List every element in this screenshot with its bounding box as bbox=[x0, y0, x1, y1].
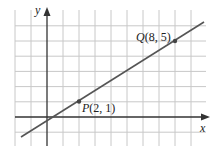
x-axis-label: x bbox=[199, 121, 206, 135]
y-axis-arrow-icon bbox=[44, 7, 51, 16]
point-p-coords: (2, 1) bbox=[89, 101, 115, 115]
point-q-label: Q(8, 5) bbox=[136, 30, 171, 44]
y-axis bbox=[44, 7, 51, 146]
point-p bbox=[77, 99, 81, 103]
coordinate-plane: y x P(2, 1) Q(8, 5) bbox=[0, 0, 219, 150]
x-axis-arrow-icon bbox=[201, 114, 210, 121]
grid-lines bbox=[15, 10, 206, 146]
y-axis-label: y bbox=[34, 3, 41, 17]
point-q-name: Q bbox=[136, 30, 145, 44]
point-q-coords: (8, 5) bbox=[145, 30, 171, 44]
point-p-label: P(2, 1) bbox=[81, 101, 115, 115]
point-q bbox=[173, 39, 177, 43]
line-pq bbox=[21, 22, 204, 137]
